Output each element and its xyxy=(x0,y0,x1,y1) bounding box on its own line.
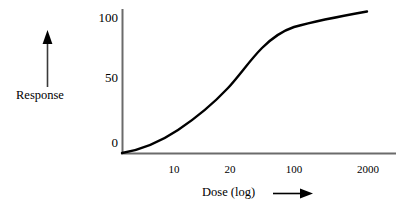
dose-right-arrow-icon xyxy=(273,189,313,199)
y-tick-label-0: 0 xyxy=(78,136,118,149)
y-tick-label-100: 100 xyxy=(78,11,118,24)
dose-response-chart: Response Dose (log) 100 50 0 10 20 100 2… xyxy=(0,0,405,216)
x-tick-label-2000: 2000 xyxy=(351,164,385,175)
x-tick-label-20: 20 xyxy=(216,164,244,175)
y-tick-label-50: 50 xyxy=(78,71,118,84)
y-axis-label: Response xyxy=(16,89,64,102)
response-up-arrow-icon xyxy=(43,30,53,87)
x-tick-label-10: 10 xyxy=(160,164,188,175)
chart-canvas xyxy=(0,0,405,216)
dose-response-curve xyxy=(122,12,367,154)
x-axis-label: Dose (log) xyxy=(202,186,255,199)
x-tick-label-100: 100 xyxy=(279,164,309,175)
